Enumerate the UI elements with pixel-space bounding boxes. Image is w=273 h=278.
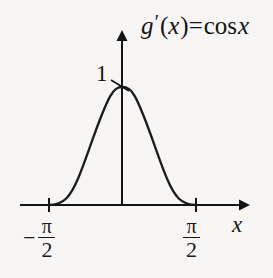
fraction-pi-over-2: π 2 [38,216,55,261]
y-axis-arrowhead [117,30,128,41]
fraction-pi-over-2: π 2 [183,216,200,261]
function-title-label: g′(x)=cosx [141,12,249,38]
x-tick-label-pi-over-2: π 2 [183,216,200,261]
minus-sign: − [23,225,35,253]
one-label-pointer-line [111,80,129,91]
fraction-denominator: 2 [184,238,199,261]
title-close-paren: ) [180,12,188,39]
y-value-one-label: 1 [96,62,108,85]
cosine-derivative-graph-figure: g′(x)=cosx 1 x − π 2 π 2 [0,0,273,278]
x-tick-label-minus-pi-over-2: − π 2 [23,216,55,261]
fraction-numerator: π [40,216,54,237]
title-variable: x [168,12,179,39]
fraction-numerator: π [184,216,198,237]
title-function-name: g [141,12,154,39]
title-equals-sign: = [189,12,203,39]
title-cos-function: cos [204,12,237,39]
title-prime-symbol: ′ [154,11,158,33]
x-axis-label: x [232,213,242,236]
title-cos-argument: x [238,12,249,39]
x-axis-arrowhead [239,200,250,211]
fraction-denominator: 2 [39,238,54,261]
title-open-paren: ( [160,12,168,39]
